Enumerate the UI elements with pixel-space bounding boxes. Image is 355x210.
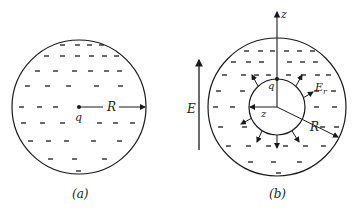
caption-a: (a) xyxy=(72,187,89,201)
radius-arrow-b xyxy=(277,107,338,137)
panel-a: q R (a) xyxy=(12,40,146,201)
panel-b: E z z R q xyxy=(186,8,346,201)
diagram-canvas: q R (a) E z z R q xyxy=(0,0,355,210)
point-charge-b xyxy=(275,77,279,81)
caption-b: (b) xyxy=(269,187,286,201)
negative-charges-a xyxy=(19,45,135,171)
z-axis-label-horizontal: z xyxy=(260,108,267,119)
field-subscript: r xyxy=(323,87,328,96)
radius-label-a: R xyxy=(106,100,116,114)
z-axis-label-vertical: z xyxy=(280,8,287,21)
radius-label-b: R xyxy=(309,120,319,134)
charge-label-a: q xyxy=(75,111,82,124)
negative-charges-b xyxy=(213,51,339,173)
figure: q R (a) E z z R q xyxy=(0,0,355,210)
external-field-label: E xyxy=(186,102,196,116)
field-label-b: Er xyxy=(314,81,328,96)
charge-label-b: q xyxy=(268,80,274,91)
